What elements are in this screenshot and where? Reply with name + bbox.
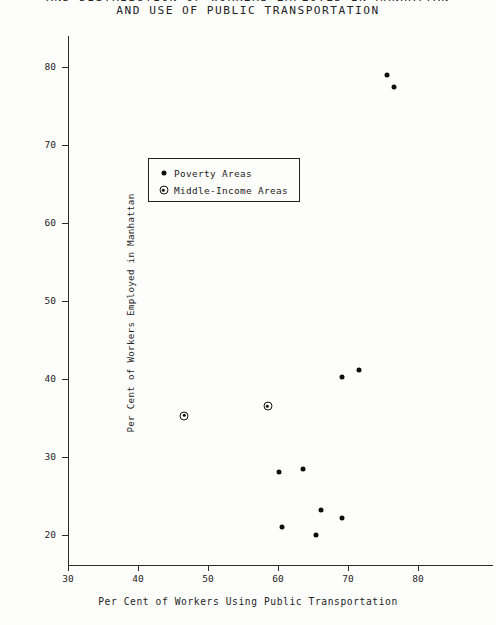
data-point-poverty	[301, 466, 306, 471]
y-tick-label-40: 40	[45, 373, 56, 384]
y-tick-30: 30	[62, 457, 68, 458]
x-tick-30: 30	[68, 566, 69, 571]
x-tick-label-50: 50	[202, 573, 213, 584]
y-tick-label-20: 20	[45, 529, 56, 540]
data-point-poverty	[280, 525, 285, 530]
data-point-poverty	[357, 367, 362, 372]
y-tick-60: 60	[62, 223, 68, 224]
legend-entry-middle-income-areas: Middle-Income Areas	[158, 184, 288, 196]
y-tick-label-80: 80	[45, 61, 56, 72]
data-point-poverty	[339, 375, 344, 380]
x-tick-label-70: 70	[342, 573, 353, 584]
y-tick-50: 50	[62, 301, 68, 302]
x-tick-label-60: 60	[272, 573, 283, 584]
legend-label-middle-income-areas: Middle-Income Areas	[174, 185, 288, 196]
x-tick-label-40: 40	[132, 573, 143, 584]
x-tick-50: 50	[208, 566, 209, 571]
data-point-poverty	[276, 470, 281, 475]
data-point-poverty	[339, 515, 344, 520]
y-tick-label-30: 30	[45, 451, 56, 462]
y-tick-label-70: 70	[45, 139, 56, 150]
x-axis-title: Per Cent of Workers Using Public Transpo…	[0, 596, 496, 607]
chart-title-line-2: AND USE OF PUBLIC TRANSPORTATION	[0, 4, 496, 17]
y-tick-label-50: 50	[45, 295, 56, 306]
y-tick-40: 40	[62, 379, 68, 380]
data-point-poverty	[392, 84, 397, 89]
y-tick-70: 70	[62, 145, 68, 146]
data-point-poverty	[313, 532, 318, 537]
chart-title: AND DISTRIBUTION OF WORKERS EMPLOYED IN …	[0, 0, 496, 17]
y-axis-title: Per Cent of Workers Employed in Manhatta…	[125, 193, 136, 432]
y-tick-20: 20	[62, 535, 68, 536]
y-tick-label-60: 60	[45, 217, 56, 228]
x-tick-label-30: 30	[62, 573, 73, 584]
legend-label-poverty-areas: Poverty Areas	[174, 168, 252, 179]
x-tick-label-80: 80	[412, 573, 423, 584]
circled-dot-icon	[158, 185, 169, 196]
data-point-poverty	[318, 507, 323, 512]
x-tick-40: 40	[138, 566, 139, 571]
data-point-middle-income	[263, 402, 272, 411]
legend-entry-poverty-areas: Poverty Areas	[158, 167, 252, 179]
data-point-middle-income	[180, 411, 189, 420]
x-tick-80: 80	[418, 566, 419, 571]
data-point-poverty	[384, 72, 389, 77]
y-tick-80: 80	[62, 67, 68, 68]
x-tick-70: 70	[348, 566, 349, 571]
legend-box: Poverty Areas Middle-Income Areas	[148, 158, 300, 202]
x-tick-60: 60	[278, 566, 279, 571]
filled-dot-icon	[158, 168, 169, 179]
